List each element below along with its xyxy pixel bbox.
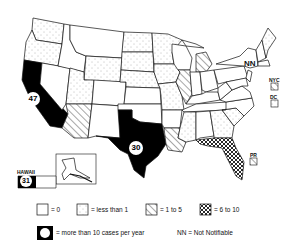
dc-box (271, 100, 278, 107)
state-michigan (196, 52, 212, 72)
us-map (0, 0, 299, 246)
hawaii-label: HAWAII (17, 169, 35, 175)
state-north-dakota (122, 32, 153, 52)
legend-label-1-to-5: = 1 to 5 (160, 206, 182, 213)
dc-label: DC (270, 94, 277, 100)
nyc-box (271, 83, 278, 90)
legend-label-zero: = 0 (51, 206, 60, 213)
legend-dotted-swatch (77, 204, 88, 215)
legend-blank-swatch (37, 204, 48, 215)
legend-cross-swatch (200, 204, 211, 215)
state-south-dakota (121, 52, 154, 72)
state-wyoming (84, 56, 122, 82)
hawaii-count: 31 (20, 175, 32, 187)
legend-hatch-swatch (146, 204, 157, 215)
pr-box (250, 158, 257, 165)
state-colorado (92, 80, 126, 106)
state-florida (196, 138, 244, 180)
california-count: 47 (26, 92, 40, 106)
nyc-label: NYC (269, 77, 280, 83)
legend-label-more-than-10: = more than 10 cases per year (56, 229, 144, 236)
pr-label: PR (250, 152, 257, 158)
state-kansas (124, 87, 161, 104)
legend-label-6-to-10: = 6 to 10 (214, 206, 239, 213)
texas-count: 30 (129, 141, 143, 155)
state-new-mexico (88, 104, 122, 138)
legend-label-less-than-1: = less than 1 (91, 206, 128, 213)
state-wisconsin (172, 44, 192, 70)
state-arkansas (162, 110, 182, 128)
state-arizona (62, 104, 92, 138)
legend-nn-note: NN = Not Notifiable (177, 229, 233, 236)
new-york-nn-label: NN (244, 59, 256, 68)
state-montana (70, 25, 124, 58)
